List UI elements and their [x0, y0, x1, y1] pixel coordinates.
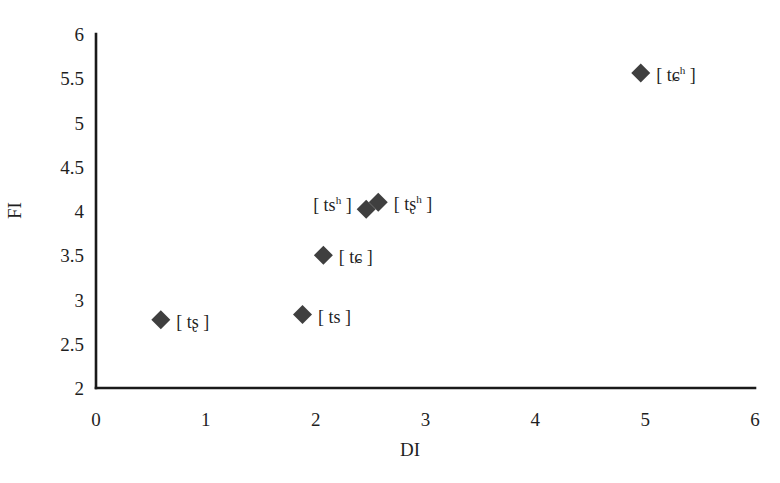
y-tick-label: 4 [75, 202, 85, 221]
y-tick-label: 2.5 [60, 334, 84, 353]
x-tick-label: 3 [421, 410, 431, 429]
data-point-label: [ tɕh ] [656, 66, 696, 84]
y-tick-label: 3.5 [60, 246, 84, 265]
x-tick-label: 5 [640, 410, 650, 429]
y-tick-label: 6 [75, 25, 85, 44]
x-tick-label: 0 [91, 410, 101, 429]
data-point-label: [ tsh ] [313, 196, 352, 214]
x-tick-label: 1 [201, 410, 211, 429]
y-axis-title: FI [5, 202, 24, 219]
y-tick-label: 4.5 [60, 157, 84, 176]
data-point-marker [293, 305, 312, 324]
x-axis-title: DI [400, 440, 420, 459]
label-tail: ] [341, 195, 352, 215]
label-base: [ tɕ [656, 65, 679, 85]
label-tail: ] [422, 194, 433, 214]
data-point-marker [631, 63, 650, 82]
y-tick-label: 5.5 [60, 69, 84, 88]
data-point-label: [ tʂ ] [176, 313, 209, 331]
label-base: [ ts [313, 195, 336, 215]
y-tick-label: 2 [75, 379, 85, 398]
label-tail: ] [685, 65, 696, 85]
data-point-label: [ tɕ ] [339, 248, 373, 266]
data-point-label: [ ts ] [318, 308, 351, 326]
x-tick-label: 2 [311, 410, 321, 429]
label-base: [ tʂ [394, 194, 417, 214]
data-point-label: [ tʂh ] [394, 195, 433, 213]
y-tick-label: 5 [75, 113, 85, 132]
x-tick-label: 6 [750, 410, 760, 429]
x-tick-label: 4 [531, 410, 541, 429]
data-point-marker [314, 246, 333, 265]
scatter-chart: 22.533.544.555.56 0123456 [ tʂ ][ ts ][ … [0, 0, 780, 483]
y-tick-label: 3 [75, 290, 85, 309]
data-point-marker [151, 310, 170, 329]
